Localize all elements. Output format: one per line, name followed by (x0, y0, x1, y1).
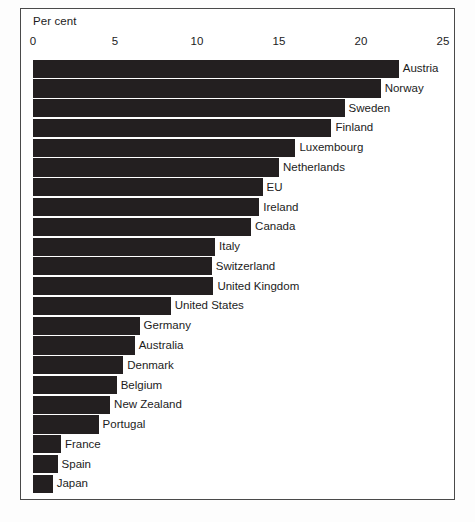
bar-row: Switzerland (21, 257, 454, 277)
bar-finland (33, 119, 331, 137)
bar-row: Spain (21, 454, 454, 474)
bar-france (33, 435, 61, 453)
bar-sweden (33, 99, 345, 117)
bar-eu (33, 178, 263, 196)
bar-row: Belgium (21, 375, 454, 395)
bar-label-united-kingdom: United Kingdom (217, 279, 299, 293)
bar-label-finland: Finland (335, 120, 373, 134)
bar-row: Finland (21, 118, 454, 138)
bar-label-japan: Japan (57, 476, 88, 490)
bar-australia (33, 336, 135, 354)
bar-spain (33, 455, 58, 473)
bar-label-portugal: Portugal (103, 417, 146, 431)
x-tick-label-5: 5 (112, 35, 118, 47)
bar-row: Denmark (21, 356, 454, 376)
bar-label-denmark: Denmark (127, 358, 174, 372)
bar-row: United States (21, 296, 454, 316)
x-tick-label-0: 0 (30, 35, 36, 47)
bar-row: United Kingdom (21, 276, 454, 296)
x-tick-label-25: 25 (437, 35, 450, 47)
bar-label-switzerland: Switzerland (216, 259, 275, 273)
bar-label-austria: Austria (403, 61, 439, 75)
bar-netherlands (33, 158, 279, 176)
x-axis: 0510152025 (21, 35, 454, 50)
bar-row: Canada (21, 217, 454, 237)
figure-container: Per cent 0510152025 AustriaNorwaySwedenF… (0, 0, 475, 522)
x-tick-label-15: 15 (273, 35, 286, 47)
bar-label-ireland: Ireland (263, 200, 298, 214)
bar-italy (33, 238, 215, 256)
bar-label-new-zealand: New Zealand (114, 397, 182, 411)
bar-denmark (33, 356, 123, 374)
bar-series: AustriaNorwaySwedenFinlandLuxembourgNeth… (21, 59, 454, 499)
bar-row: Sweden (21, 99, 454, 119)
bar-row: Ireland (21, 197, 454, 217)
bar-row: France (21, 435, 454, 455)
bar-row: Portugal (21, 415, 454, 435)
chart-frame: Per cent 0510152025 AustriaNorwaySwedenF… (20, 8, 455, 500)
bar-portugal (33, 415, 99, 433)
bar-ireland (33, 198, 259, 216)
bar-label-spain: Spain (62, 457, 91, 471)
bar-label-netherlands: Netherlands (283, 160, 345, 174)
bar-row: EU (21, 178, 454, 198)
bar-norway (33, 79, 381, 97)
bar-row: Germany (21, 316, 454, 336)
bar-label-canada: Canada (255, 219, 295, 233)
bar-label-luxembourg: Luxembourg (299, 140, 363, 154)
bar-germany (33, 317, 140, 335)
x-tick-label-10: 10 (191, 35, 204, 47)
bar-canada (33, 218, 251, 236)
bar-label-australia: Australia (139, 338, 184, 352)
bar-row: New Zealand (21, 395, 454, 415)
bar-label-germany: Germany (144, 318, 191, 332)
x-axis-unit-label: Per cent (33, 15, 77, 27)
bar-row: Japan (21, 474, 454, 494)
bar-label-france: France (65, 437, 101, 451)
bar-label-sweden: Sweden (349, 101, 391, 115)
bar-label-eu: EU (267, 180, 283, 194)
bar-austria (33, 60, 399, 78)
plot-area: Per cent 0510152025 AustriaNorwaySwedenF… (21, 9, 454, 499)
bar-row: Luxembourg (21, 138, 454, 158)
bar-label-belgium: Belgium (121, 378, 163, 392)
x-tick-label-20: 20 (355, 35, 368, 47)
bar-label-united-states: United States (175, 298, 244, 312)
bar-united-kingdom (33, 277, 213, 295)
bar-united-states (33, 297, 171, 315)
bar-new-zealand (33, 396, 110, 414)
bar-switzerland (33, 257, 212, 275)
bar-luxembourg (33, 139, 295, 157)
bar-japan (33, 475, 53, 493)
bar-row: Norway (21, 79, 454, 99)
bar-row: Australia (21, 336, 454, 356)
bar-label-italy: Italy (219, 239, 240, 253)
bar-row: Austria (21, 59, 454, 79)
bar-row: Netherlands (21, 158, 454, 178)
bar-label-norway: Norway (385, 81, 424, 95)
bar-belgium (33, 376, 117, 394)
bar-row: Italy (21, 237, 454, 257)
